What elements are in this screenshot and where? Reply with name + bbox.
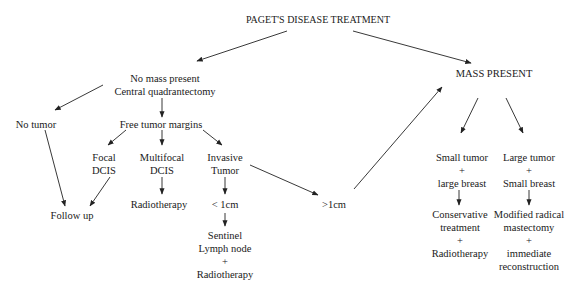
node-large-tumor-small-breast: Large tumor + Small breast bbox=[503, 151, 555, 190]
node-text: MASS PRESENT bbox=[456, 67, 533, 80]
node-text: reconstruction bbox=[494, 260, 564, 273]
diagram-title: PAGET'S DISEASE TREATMENT bbox=[246, 13, 390, 26]
edge-invasive-to-gt-1cm bbox=[250, 165, 318, 195]
node-focal-dcis: Focal DCIS bbox=[92, 151, 116, 177]
title-text: PAGET'S DISEASE TREATMENT bbox=[246, 13, 390, 26]
edge-free-margins-to-focal bbox=[108, 130, 126, 145]
node-follow-up: Follow up bbox=[51, 209, 94, 222]
node-text: DCIS bbox=[92, 164, 116, 177]
node-no-mass-present: No mass present Central quadrantectomy bbox=[114, 72, 215, 98]
node-text: Large tumor bbox=[503, 151, 555, 164]
node-text: No tumor bbox=[16, 118, 57, 131]
node-text: Follow up bbox=[51, 209, 94, 222]
node-greater-than-1cm: >1cm bbox=[322, 198, 346, 211]
node-radiotherapy: Radiotherapy bbox=[131, 198, 188, 211]
node-text: Radiotherapy bbox=[131, 198, 188, 211]
node-mass-present: MASS PRESENT bbox=[456, 67, 533, 80]
node-text: immediate bbox=[494, 247, 564, 260]
node-text: Radiotherapy bbox=[197, 268, 254, 281]
edge-focal-to-follow-up bbox=[90, 177, 110, 206]
node-text: + bbox=[436, 164, 488, 177]
edge-no-mass-to-no-tumor bbox=[55, 85, 103, 110]
node-text: Modified radical bbox=[494, 208, 564, 221]
edge-mass-to-small-tumor bbox=[461, 98, 478, 133]
node-text: DCIS bbox=[140, 164, 184, 177]
flowchart-edges bbox=[0, 0, 579, 284]
edge-mass-to-large-tumor bbox=[506, 98, 523, 133]
node-text: Small breast bbox=[503, 177, 555, 190]
node-text: Free tumor margins bbox=[120, 118, 203, 131]
node-sentinel-lymph-node: Sentinel Lymph node + Radiotherapy bbox=[197, 229, 254, 281]
node-modified-radical-mastectomy: Modified radical mastectomy + immediate … bbox=[494, 208, 564, 273]
node-text: Central quadrantectomy bbox=[114, 85, 215, 98]
node-text: Small tumor bbox=[436, 151, 488, 164]
node-text: mastectomy bbox=[494, 221, 564, 234]
node-text: large breast bbox=[436, 177, 488, 190]
node-free-tumor-margins: Free tumor margins bbox=[120, 118, 203, 131]
edge-title-to-no-mass bbox=[197, 31, 287, 61]
node-text: Focal bbox=[92, 151, 116, 164]
node-less-than-1cm: < 1cm bbox=[212, 198, 239, 211]
node-text: + bbox=[494, 234, 564, 247]
node-text: No mass present bbox=[114, 72, 215, 85]
node-no-tumor: No tumor bbox=[16, 118, 57, 131]
node-text: + bbox=[197, 255, 254, 268]
node-text: Radiotherapy bbox=[432, 247, 489, 260]
node-text: Tumor bbox=[207, 164, 243, 177]
node-text: < 1cm bbox=[212, 198, 239, 211]
node-text: Conservative bbox=[432, 208, 489, 221]
node-text: Sentinel bbox=[197, 229, 254, 242]
node-text: treatment bbox=[432, 221, 489, 234]
node-text: + bbox=[503, 164, 555, 177]
node-text: Lymph node bbox=[197, 242, 254, 255]
node-text: + bbox=[432, 234, 489, 247]
node-text: >1cm bbox=[322, 198, 346, 211]
node-text: Multifocal bbox=[140, 151, 184, 164]
node-small-tumor-large-breast: Small tumor + large breast bbox=[436, 151, 488, 190]
edge-gt-1cm-to-mass-present bbox=[354, 87, 442, 189]
flowchart-canvas: PAGET'S DISEASE TREATMENT No mass presen… bbox=[0, 0, 579, 284]
node-conservative-treatment: Conservative treatment + Radiotherapy bbox=[432, 208, 489, 260]
node-invasive-tumor: Invasive Tumor bbox=[207, 151, 243, 177]
edge-free-margins-to-invasive bbox=[203, 130, 222, 145]
edge-title-to-mass-present bbox=[353, 31, 471, 63]
node-multifocal-dcis: Multifocal DCIS bbox=[140, 151, 184, 177]
node-text: Invasive bbox=[207, 151, 243, 164]
edge-no-tumor-to-follow-up bbox=[45, 130, 65, 206]
